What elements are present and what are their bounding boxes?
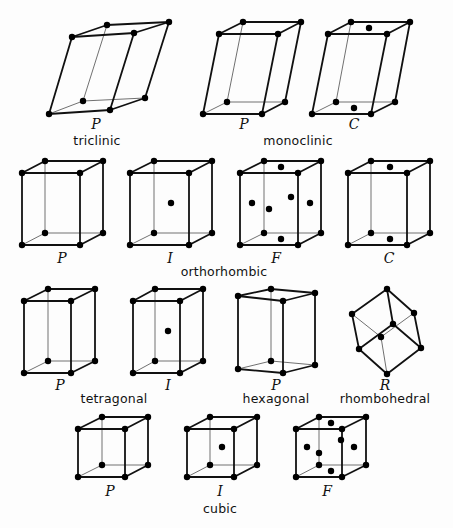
hidden-edge [78,465,102,477]
hidden-edge [187,465,210,477]
lattice-point-corner [275,31,281,37]
lattice-point-corner [312,362,318,368]
visible-edge [189,161,212,173]
lattice-monoclinic-C: C [309,19,413,132]
visible-edge [234,465,257,477]
lattice-point-centered [328,468,334,474]
lattice-point-corner [19,242,25,248]
centering-label: I [164,377,171,393]
visible-edge [352,314,359,349]
lattice-point-corner [293,426,299,432]
centering-label: I [166,250,173,266]
lattice-point-corner [254,414,260,420]
lattice-point-corner [368,230,374,236]
visible-edge [180,289,203,301]
lattice-orthorhombic-I: I [127,158,215,266]
lattice-point-corner [127,242,133,248]
crystal-system-label: monoclinic [263,133,332,148]
lattice-point-corner [92,286,98,292]
hidden-edge [271,361,315,365]
visible-edge [240,161,264,173]
visible-edge [359,324,393,349]
lattice-point-corner [368,158,374,164]
lattice-cubic-P: P [75,414,151,499]
lattice-point-corner [184,426,190,432]
lattice-point-corner [392,99,398,105]
lattice-orthorhombic-C: C [345,158,433,266]
lattice-point-corner [152,358,158,364]
visible-edge [283,365,315,373]
lattice-point-corner [235,366,241,372]
lattice-point-corner [390,321,396,327]
visible-edge [342,417,366,429]
lattice-point-corner [316,462,322,468]
lattice-point-corner [231,474,237,480]
lattice-point-centered [278,164,284,170]
lattice-point-corner [312,290,318,296]
visible-edge [371,102,395,114]
lattice-point-corner [237,242,243,248]
lattice-point-corner [100,158,106,164]
centering-label: F [321,483,333,499]
lattice-point-corner [68,370,74,376]
lattice-point-corner [75,474,81,480]
lattice-point-centered [278,236,284,242]
lattice-point-corner [224,99,230,105]
lattice-point-corner [152,286,158,292]
crystal-system-label: hexagonal [243,391,310,406]
lattice-point-corner [348,19,354,25]
visible-edge [359,349,387,374]
visible-edge [387,22,410,34]
lattice-point-corner [349,311,355,317]
visible-edge [238,296,283,301]
centering-label: P [56,250,67,266]
visible-edge [180,361,203,373]
lattice-point-corner [166,19,172,25]
lattice-point-corner [427,230,433,236]
visible-edge [80,233,103,245]
lattice-point-corner [235,293,241,299]
visible-edge [49,37,72,114]
lattice-point-corner [151,230,157,236]
lattice-point-corner [259,111,265,117]
lattice-point-corner [384,286,390,292]
crystal-system-label: triclinic [73,133,120,148]
lattice-point-corner [127,170,133,176]
lattice-point-corner [68,298,74,304]
visible-edge [78,417,102,429]
visible-edge [283,293,315,301]
lattice-point-corner [280,298,286,304]
lattice-point-corner [104,22,110,28]
visible-edge [189,233,212,245]
lattice-point-corner [122,474,128,480]
lattice-point-corner [99,414,105,420]
lattice-point-corner [237,170,243,176]
lattice-point-corner [418,345,424,351]
lattice-point-corner [345,242,351,248]
lattice-tetragonal-I: I [130,286,206,393]
lattice-point-corner [384,31,390,37]
lattice-point-corner [427,158,433,164]
lattice-point-corner [186,242,192,248]
lattice-rhombohedral-R: R [349,286,424,393]
centering-label: P [90,116,101,132]
hidden-edge [296,465,319,477]
lattice-point-centered [316,450,322,456]
lattice-point-corner [75,426,81,432]
lattice-point-centered [351,105,357,111]
lattice-point-corner [207,414,213,420]
hidden-edge [130,233,154,245]
hidden-edge [24,361,48,373]
lattice-point-corner [46,111,52,117]
lattice-point-corner [77,242,83,248]
lattice-point-corner [295,170,301,176]
lattice-point-corner [231,426,237,432]
lattice-point-corner [268,358,274,364]
lattice-point-corner [142,95,148,101]
lattice-point-centered [266,206,272,212]
lattice-point-corner [325,31,331,37]
lattice-point-corner [363,462,369,468]
visible-edge [110,98,145,110]
visible-edge [145,22,169,98]
lattice-point-corner [130,298,136,304]
